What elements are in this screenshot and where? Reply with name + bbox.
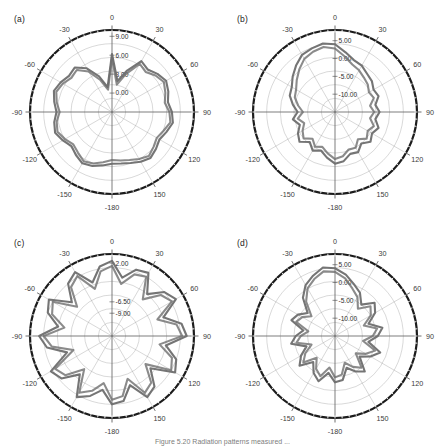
- data-series-group: [39, 261, 187, 405]
- radial-tick-5.00: 5.00: [339, 261, 352, 268]
- radial-tick-0.00: 0.00: [116, 89, 129, 96]
- data-series-group: [290, 44, 380, 164]
- angular-tick-0: 0: [110, 13, 114, 22]
- angular-tick--180: -180: [328, 427, 342, 436]
- angular-tick-120: 120: [188, 155, 200, 164]
- panel-a-plot: 0306090120150-180-150-120-90-60-300.003.…: [0, 0, 222, 223]
- angular-tick--60: -60: [248, 60, 258, 69]
- angular-tick-30: 30: [156, 249, 164, 258]
- angular-tick--150: -150: [280, 190, 294, 199]
- panel-d-plot: 0306090120150-180-150-120-90-60-30-10.00…: [223, 224, 445, 447]
- radial-tick--5.00: -5.00: [339, 297, 354, 304]
- angular-tick--150: -150: [280, 414, 294, 423]
- angular-tick--120: -120: [23, 155, 37, 164]
- panel-a: (a) 0306090120150-180-150-120-90-60-300.…: [0, 0, 222, 223]
- polar-chart-c: 0306090120150-180-150-120-90-60-30-9.00-…: [0, 224, 222, 447]
- angular-tick-90: 90: [426, 108, 434, 117]
- angular-tick--150: -150: [57, 190, 71, 199]
- angular-tick-60: 60: [190, 284, 198, 293]
- angular-tick--60: -60: [25, 60, 35, 69]
- radial-tick--9.00: -9.00: [116, 310, 131, 317]
- polar-chart-a: 0306090120150-180-150-120-90-60-300.003.…: [0, 0, 222, 223]
- panel-b: (b) 0306090120150-180-150-120-90-60-30-1…: [223, 0, 445, 223]
- radial-tick--6.50: -6.50: [116, 298, 131, 305]
- angular-tick-150: 150: [377, 414, 389, 423]
- radial-tick-6.00: 6.00: [116, 52, 129, 59]
- angular-tick-30: 30: [379, 25, 387, 34]
- angular-tick-150: 150: [154, 414, 166, 423]
- angular-tick-90: 90: [203, 108, 211, 117]
- polar-chart-d: 0306090120150-180-150-120-90-60-30-10.00…: [223, 224, 445, 447]
- angular-tick--150: -150: [57, 414, 71, 423]
- angular-tick--120: -120: [246, 155, 260, 164]
- angular-tick-0: 0: [333, 13, 337, 22]
- angular-tick--120: -120: [246, 379, 260, 388]
- angular-tick-30: 30: [156, 25, 164, 34]
- angular-tick--60: -60: [25, 284, 35, 293]
- panel-c-plot: 0306090120150-180-150-120-90-60-30-9.00-…: [0, 224, 222, 447]
- angular-tick-60: 60: [413, 284, 421, 293]
- angular-tick-90: 90: [203, 332, 211, 341]
- angular-tick--90: -90: [12, 332, 22, 341]
- angular-tick--30: -30: [59, 25, 69, 34]
- series-pattern-1: [291, 268, 382, 383]
- series-pattern-2: [44, 266, 182, 400]
- radial-tick-5.00: 5.00: [339, 37, 352, 44]
- angular-tick--180: -180: [105, 203, 119, 212]
- figure-radiation-patterns: (a) 0306090120150-180-150-120-90-60-300.…: [0, 0, 445, 447]
- angular-tick--30: -30: [282, 249, 292, 258]
- angular-tick-60: 60: [190, 60, 198, 69]
- radial-tick-2.00: 2.00: [116, 260, 129, 267]
- angular-tick--90: -90: [235, 332, 245, 341]
- radial-tick--5.00: -5.00: [339, 73, 354, 80]
- angular-tick--120: -120: [23, 379, 37, 388]
- angular-tick--30: -30: [59, 249, 69, 258]
- angular-tick--180: -180: [105, 427, 119, 436]
- series-pattern-2: [296, 271, 377, 377]
- angular-tick-0: 0: [110, 237, 114, 246]
- panel-d: (d) 0306090120150-180-150-120-90-60-30-1…: [223, 224, 445, 447]
- radial-tick-9.00: 9.00: [116, 33, 129, 40]
- angular-tick--90: -90: [12, 108, 22, 117]
- angular-tick-120: 120: [411, 155, 423, 164]
- angular-tick--90: -90: [235, 108, 245, 117]
- angular-tick-150: 150: [154, 190, 166, 199]
- angular-tick-0: 0: [333, 237, 337, 246]
- panel-b-plot: 0306090120150-180-150-120-90-60-30-10.00…: [223, 0, 445, 223]
- figure-caption: Figure 5.20 Radiation patterns measured …: [0, 438, 445, 447]
- data-series-group: [291, 268, 382, 383]
- angular-tick-30: 30: [379, 249, 387, 258]
- angular-tick--60: -60: [248, 284, 258, 293]
- radial-tick--10.00: -10.00: [339, 91, 358, 98]
- angular-tick--180: -180: [328, 203, 342, 212]
- angular-tick-90: 90: [426, 332, 434, 341]
- angular-tick--30: -30: [282, 25, 292, 34]
- panel-c: (c) 0306090120150-180-150-120-90-60-30-9…: [0, 224, 222, 447]
- angular-tick-60: 60: [413, 60, 421, 69]
- radial-tick--10.00: -10.00: [339, 315, 358, 322]
- angular-tick-120: 120: [411, 379, 423, 388]
- angular-tick-120: 120: [188, 379, 200, 388]
- series-pattern-1: [39, 261, 187, 405]
- polar-chart-b: 0306090120150-180-150-120-90-60-30-10.00…: [223, 0, 445, 223]
- angular-tick-150: 150: [377, 190, 389, 199]
